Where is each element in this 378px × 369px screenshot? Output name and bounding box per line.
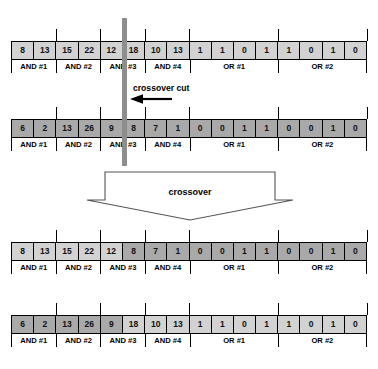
gene-cell: 13	[167, 316, 189, 333]
group-label-row: AND #1AND #2AND #3AND #4OR #1OR #2	[11, 138, 367, 151]
gene-cell: 8	[12, 243, 34, 260]
group-ticks	[11, 303, 367, 315]
group-boundary-tick	[189, 107, 190, 119]
group-boundary-tick	[278, 303, 279, 315]
gene-cell-row: 621326987100110010	[11, 119, 367, 138]
group-label: AND #4	[145, 138, 190, 151]
group-boundary-tick	[145, 303, 146, 315]
gene-cell: 0	[345, 42, 366, 59]
group-boundary-tick	[367, 230, 368, 242]
gene-cell: 15	[56, 42, 78, 59]
group-boundary-tick	[278, 230, 279, 242]
crossover-diagram: 81315221218101311011010 AND #1AND #2AND …	[0, 0, 378, 369]
crossover-cut-bar	[122, 18, 127, 166]
gene-cell: 10	[145, 42, 167, 59]
group-boundary-tick	[367, 303, 368, 315]
group-ticks	[11, 29, 367, 41]
group-boundary-tick	[189, 29, 190, 41]
gene-cell: 1	[278, 42, 300, 59]
gene-cell: 12	[101, 42, 123, 59]
group-label: OR #1	[190, 138, 278, 151]
gene-cell: 6	[12, 316, 34, 333]
gene-cell: 1	[323, 42, 345, 59]
group-ticks	[11, 107, 367, 119]
group-label: OR #2	[278, 60, 367, 73]
gene-cell: 8	[12, 42, 34, 59]
gene-cell: 26	[79, 316, 101, 333]
gene-cell: 1	[234, 120, 256, 137]
group-boundary-tick	[367, 107, 368, 119]
gene-cell: 13	[56, 120, 78, 137]
group-label: OR #2	[278, 261, 367, 274]
gene-cell: 15	[56, 243, 78, 260]
gene-cell: 0	[300, 42, 322, 59]
group-label: AND #2	[56, 60, 101, 73]
chromosome-child-2: 621326918101311011010 AND #1AND #2AND #3…	[11, 315, 367, 354]
gene-cell: 1	[190, 316, 212, 333]
gene-cell: 13	[34, 42, 56, 59]
gene-cell: 1	[212, 316, 234, 333]
gene-cell: 1	[167, 120, 189, 137]
gene-cell: 8	[123, 243, 145, 260]
gene-cell: 18	[123, 316, 145, 333]
group-label: AND #4	[145, 261, 190, 274]
chromosome-child-1: 81315221287100110010 AND #1AND #2AND #3A…	[11, 242, 367, 281]
gene-cell: 13	[56, 316, 78, 333]
gene-cell: 1	[278, 316, 300, 333]
gene-cell: 1	[256, 42, 278, 59]
gene-cell-row: 81315221287100110010	[11, 242, 367, 261]
group-boundary-tick	[278, 29, 279, 41]
chromosome-parent-1: 81315221218101311011010 AND #1AND #2AND …	[11, 41, 367, 80]
crossover-arrow-label: crossover	[85, 187, 295, 197]
group-label: AND #2	[56, 138, 101, 151]
crossover-cut-arrow-icon	[130, 93, 172, 105]
gene-cell: 22	[79, 243, 101, 260]
gene-cell: 1	[167, 243, 189, 260]
group-label: AND #1	[11, 138, 56, 151]
group-label: OR #2	[278, 138, 367, 151]
group-label: AND #3	[100, 261, 145, 274]
gene-cell: 7	[145, 243, 167, 260]
group-boundary-tick	[100, 29, 101, 41]
group-boundary-tick	[100, 303, 101, 315]
gene-cell: 0	[234, 316, 256, 333]
group-label: OR #1	[190, 60, 278, 73]
group-label: AND #1	[11, 334, 56, 347]
gene-cell: 7	[145, 120, 167, 137]
gene-cell: 0	[278, 120, 300, 137]
gene-cell: 13	[34, 243, 56, 260]
group-label: AND #2	[56, 334, 101, 347]
group-boundary-tick	[189, 230, 190, 242]
group-boundary-tick	[145, 107, 146, 119]
gene-cell: 0	[345, 243, 366, 260]
group-label: AND #3	[100, 334, 145, 347]
gene-cell: 9	[101, 120, 123, 137]
gene-cell: 13	[167, 42, 189, 59]
gene-cell: 1	[323, 316, 345, 333]
group-boundary-tick	[100, 230, 101, 242]
gene-cell: 0	[300, 120, 322, 137]
gene-cell: 1	[190, 42, 212, 59]
group-boundary-tick	[189, 303, 190, 315]
group-boundary-tick	[56, 230, 57, 242]
group-label: AND #1	[11, 261, 56, 274]
gene-cell: 1	[323, 243, 345, 260]
group-label-row: AND #1AND #2AND #3AND #4OR #1OR #2	[11, 60, 367, 73]
gene-cell: 0	[212, 243, 234, 260]
gene-cell: 22	[79, 42, 101, 59]
gene-cell: 0	[345, 316, 366, 333]
crossover-cut-label: crossover cut	[133, 83, 189, 93]
gene-cell: 1	[256, 243, 278, 260]
gene-cell: 0	[190, 120, 212, 137]
gene-cell: 10	[145, 316, 167, 333]
gene-cell: 1	[212, 42, 234, 59]
gene-cell-row: 81315221218101311011010	[11, 41, 367, 60]
group-boundary-tick	[56, 303, 57, 315]
group-label: AND #4	[145, 334, 190, 347]
chromosome-parent-2: 621326987100110010 AND #1AND #2AND #3AND…	[11, 119, 367, 158]
gene-cell: 0	[234, 42, 256, 59]
gene-cell: 2	[34, 316, 56, 333]
group-boundary-tick	[100, 107, 101, 119]
gene-cell: 9	[101, 316, 123, 333]
group-label-row: AND #1AND #2AND #3AND #4OR #1OR #2	[11, 334, 367, 347]
